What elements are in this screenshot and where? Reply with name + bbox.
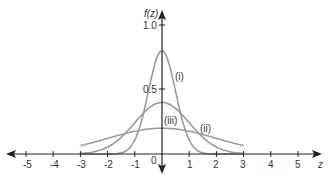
x-tick-label: -4: [50, 159, 59, 170]
curve-label-iii: (iii): [164, 115, 177, 126]
y-axis-label: f(z): [144, 8, 158, 19]
x-tick-label: -5: [23, 159, 32, 170]
curve-label-i: (i): [175, 71, 184, 82]
x-tick-label: 5: [295, 159, 301, 170]
y-tick-label-1: 1.0: [143, 20, 157, 31]
x-axis-label: z: [317, 159, 323, 170]
x-tick-label: -2: [104, 159, 113, 170]
origin-label: 0: [151, 155, 157, 166]
curve-label-ii: (ii): [200, 123, 211, 134]
x-tick-label: 4: [268, 159, 274, 170]
x-tick-label: 2: [213, 159, 219, 170]
normal-curves-chart: f(z) 1.0 0.5 z -5 -4 -3 -2 -1 0 1 2 3 4 …: [0, 0, 328, 180]
x-tick-label: 1: [187, 159, 193, 170]
x-tick-label: 3: [240, 159, 246, 170]
y-tick-label-05: 0.5: [143, 84, 157, 95]
x-tick-label: -1: [131, 159, 140, 170]
x-tick-label: -3: [77, 159, 86, 170]
